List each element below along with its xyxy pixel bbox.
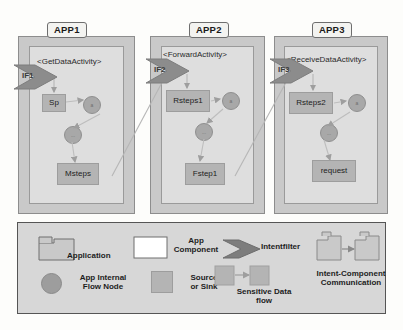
legend-label-app-component: App Component bbox=[170, 236, 222, 254]
rectangle-outline-icon bbox=[133, 236, 169, 260]
app3-flow-node-a[interactable]: a bbox=[348, 94, 366, 112]
app1-intent-filter-label: IF1 bbox=[22, 71, 34, 80]
legend-label-intentfilter: Intentfilter bbox=[261, 242, 323, 251]
intent-filter-icon-if3[interactable] bbox=[269, 58, 319, 84]
app3-flow-node-b[interactable]: ... bbox=[320, 124, 338, 142]
intent-filter-icon-if1[interactable] bbox=[13, 64, 63, 90]
app3-source-box[interactable]: Rsteps2 bbox=[289, 92, 333, 114]
two-squares-arrow-icon bbox=[214, 264, 276, 288]
chevron-arrow-icon bbox=[222, 239, 264, 259]
app1-tab-label: APP1 bbox=[47, 22, 87, 38]
app2-sink-box[interactable]: Fstep1 bbox=[185, 163, 225, 185]
legend-label-intent-component-communication: Intent-Component Communication bbox=[307, 269, 395, 287]
app2-intent-filter-label: IF2 bbox=[154, 65, 166, 74]
app3-tab-label: APP3 bbox=[312, 22, 352, 38]
app1-source-box[interactable]: Sp bbox=[42, 94, 66, 112]
gray-square-icon bbox=[151, 271, 173, 293]
app2-flow-node-b[interactable]: ... bbox=[195, 123, 213, 141]
app3-intent-filter-label: IF3 bbox=[278, 65, 290, 74]
app1-sink-box[interactable]: Msteps bbox=[57, 163, 99, 185]
app1-flow-node-a[interactable]: a bbox=[83, 96, 101, 114]
app2-source-box[interactable]: Rsteps1 bbox=[166, 90, 210, 112]
intent-filter-icon-if2[interactable] bbox=[145, 58, 195, 84]
app2-tab-label: APP2 bbox=[189, 22, 229, 38]
circle-icon bbox=[41, 273, 62, 294]
app2-flow-node-a[interactable]: a bbox=[222, 92, 240, 110]
app1-flow-node-b[interactable]: ... bbox=[64, 126, 82, 144]
legend-label-sensitive-data-flow: Sensitive Data flow bbox=[224, 287, 304, 305]
diagram-canvas: APP1 <GetDataActivity> IF1 Sp Msteps a .… bbox=[0, 0, 403, 330]
legend-label-app-internal-flow-node: App Internal Flow Node bbox=[66, 273, 140, 291]
legend-label-application: Application bbox=[67, 251, 137, 260]
two-folders-arrow-icon bbox=[315, 231, 385, 263]
legend-panel: Application App Component Intentfilter I… bbox=[17, 222, 386, 314]
app3-sink-box[interactable]: request bbox=[312, 160, 356, 182]
